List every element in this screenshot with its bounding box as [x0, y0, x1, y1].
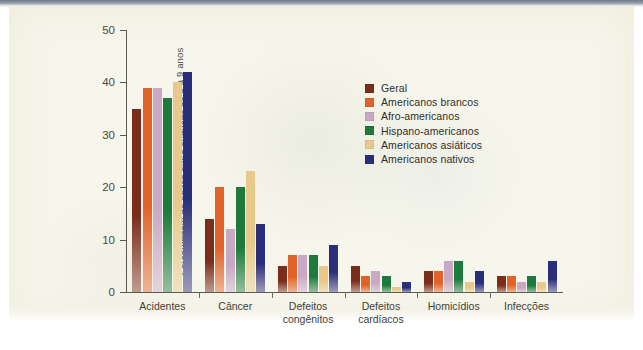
chart-page: Porcentagem de óbitos entre crianças de …	[0, 0, 643, 350]
legend-item[interactable]: Geral	[365, 81, 482, 95]
bar-fill	[507, 276, 516, 292]
legend-swatch-icon	[365, 155, 374, 164]
x-axis-group-separator	[272, 292, 273, 298]
x-axis-group-separator	[417, 292, 418, 298]
x-axis-group-separator	[490, 292, 491, 298]
bar-fill	[548, 261, 557, 292]
bar	[475, 271, 484, 292]
bar-fill	[143, 88, 152, 292]
x-axis-group-separator	[199, 292, 200, 298]
bar-group	[278, 30, 338, 292]
bar	[256, 224, 265, 292]
bar	[424, 271, 433, 292]
legend-item[interactable]: Americanos nativos	[365, 152, 482, 166]
bar-group	[497, 30, 557, 292]
bar-fill	[236, 187, 245, 292]
bar	[183, 72, 192, 292]
plot-area: Porcentagem de óbitos entre crianças de …	[126, 30, 563, 293]
legend-item[interactable]: Hispano-americanos	[365, 124, 482, 138]
bar-fill	[434, 271, 443, 292]
bar	[497, 276, 506, 292]
bar-fill	[329, 245, 338, 292]
bar	[351, 266, 360, 292]
bar-fill	[298, 255, 307, 292]
y-axis-tick-label: 20	[102, 181, 115, 193]
bar	[361, 276, 370, 292]
legend-item-label: Hispano-americanos	[381, 125, 479, 137]
y-axis-tick-label: 0	[109, 286, 115, 298]
x-axis-category-label: Acidentes	[126, 300, 199, 313]
bar	[163, 98, 172, 292]
bar	[517, 282, 526, 292]
legend-item[interactable]: Afro-americanos	[365, 109, 482, 123]
bar-fill	[537, 282, 546, 292]
bar-fill	[361, 276, 370, 292]
bar	[143, 88, 152, 292]
bar-fill	[527, 276, 536, 292]
bar-fill	[475, 271, 484, 292]
bar-fill	[454, 261, 463, 292]
legend-swatch-icon	[365, 84, 374, 93]
legend-swatch-icon	[365, 112, 374, 121]
legend-item-label: Americanos brancos	[381, 96, 479, 108]
bar-fill	[183, 72, 192, 292]
x-axis-category-label: Defeitos cardíacos	[345, 300, 418, 326]
bar	[215, 187, 224, 292]
bar	[226, 229, 235, 292]
legend-swatch-icon	[365, 98, 374, 107]
bar	[153, 88, 162, 292]
bar-group	[132, 30, 192, 292]
legend-swatch-icon	[365, 126, 374, 135]
bar	[246, 171, 255, 292]
bar-fill	[402, 282, 411, 292]
x-axis-category-label: Câncer	[199, 300, 272, 313]
bar-fill	[309, 255, 318, 292]
bar	[527, 276, 536, 292]
bar	[537, 282, 546, 292]
legend-item-label: Americanos nativos	[381, 153, 474, 165]
legend-item-label: Afro-americanos	[381, 110, 460, 122]
y-axis-tick-label: 10	[102, 234, 115, 246]
legend-item[interactable]: Americanos brancos	[365, 95, 482, 109]
chart-legend: GeralAmericanos brancosAfro-americanosHi…	[365, 81, 482, 166]
bar-fill	[246, 171, 255, 292]
legend-swatch-icon	[365, 140, 374, 149]
bar	[548, 261, 557, 292]
bar-fill	[163, 98, 172, 292]
bar	[465, 282, 474, 292]
bar-fill	[132, 109, 141, 292]
x-axis-group-separator	[345, 292, 346, 298]
bar	[382, 276, 391, 292]
bar-fill	[465, 282, 474, 292]
bar	[329, 245, 338, 292]
bar-groups: AcidentesCâncerDefeitos congênitosDefeit…	[126, 30, 563, 293]
bar-fill	[392, 287, 401, 292]
legend-item[interactable]: Americanos asiáticos	[365, 138, 482, 152]
bar-fill	[205, 219, 214, 292]
bar	[444, 261, 453, 292]
bar	[288, 255, 297, 292]
bar-fill	[256, 224, 265, 292]
bar-group	[205, 30, 265, 292]
bar	[298, 255, 307, 292]
bar-fill	[424, 271, 433, 292]
x-axis-category-label: Infecções	[490, 300, 563, 313]
y-axis-tick-label: 30	[102, 129, 115, 141]
bar-fill	[517, 282, 526, 292]
bar-fill	[444, 261, 453, 292]
bar	[392, 287, 401, 292]
bar-fill	[351, 266, 360, 292]
bar	[402, 282, 411, 292]
bar-fill	[278, 266, 287, 292]
bar	[507, 276, 516, 292]
bar	[309, 255, 318, 292]
y-axis-tick-label: 50	[102, 24, 115, 36]
bar	[454, 261, 463, 292]
x-axis-category-label: Homicídios	[417, 300, 490, 313]
bar-fill	[215, 187, 224, 292]
legend-item-label: Americanos asiáticos	[381, 139, 482, 151]
bar	[132, 109, 141, 292]
bar-fill	[288, 255, 297, 292]
bar-fill	[497, 276, 506, 292]
bar-fill	[226, 229, 235, 292]
